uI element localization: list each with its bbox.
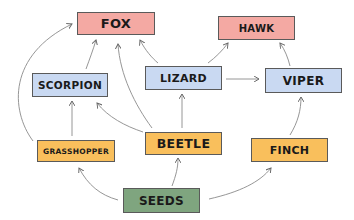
arrow-finch-to-viper xyxy=(290,97,301,135)
node-beetle: BEETLE xyxy=(145,132,222,155)
node-finch-label: FINCH xyxy=(270,144,310,157)
node-scorpion-label: SCORPION xyxy=(38,79,102,91)
arrow-seeds-to-finch xyxy=(209,168,271,199)
node-seeds: SEEDS xyxy=(123,188,200,213)
node-beetle-label: BEETLE xyxy=(157,136,210,151)
node-fox-label: FOX xyxy=(101,16,131,31)
node-viper: VIPER xyxy=(265,68,342,93)
node-finch: FINCH xyxy=(251,138,328,162)
arrow-lizard-to-hawk xyxy=(208,43,228,63)
node-scorpion: SCORPION xyxy=(32,73,108,97)
arrow-beetle-to-scorpion xyxy=(97,103,143,132)
node-lizard: LIZARD xyxy=(145,66,222,90)
node-lizard-label: LIZARD xyxy=(160,72,207,85)
node-grasshopper-label: GRASSHOPPER xyxy=(43,147,109,156)
node-seeds-label: SEEDS xyxy=(139,194,184,208)
arrow-scorpion-to-fox xyxy=(86,40,96,69)
arrow-viper-to-hawk xyxy=(280,43,290,66)
node-hawk: HAWK xyxy=(218,16,295,40)
node-grasshopper: GRASSHOPPER xyxy=(37,140,115,162)
food-web-diagram: FOX HAWK SCORPION LIZARD VIPER GRASSHOPP… xyxy=(0,0,354,220)
food-web-arrows xyxy=(0,0,354,220)
node-fox: FOX xyxy=(77,12,155,35)
node-hawk-label: HAWK xyxy=(239,23,275,34)
arrow-lizard-to-fox xyxy=(140,40,158,63)
arrow-seeds-to-beetle xyxy=(172,158,178,186)
node-viper-label: VIPER xyxy=(283,74,324,88)
arrow-seeds-to-grasshopper xyxy=(79,168,118,200)
